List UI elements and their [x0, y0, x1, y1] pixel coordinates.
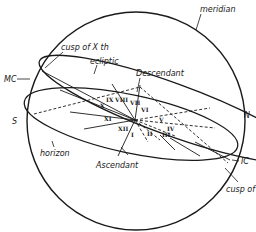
label-ecliptic: ecliptic — [90, 57, 119, 66]
house-xi: XI — [104, 115, 112, 122]
house-x: X — [100, 102, 105, 109]
label-mc: MC — [4, 75, 17, 84]
label-ascendant: Ascendant — [95, 161, 139, 170]
house-vii: VII — [129, 99, 140, 106]
label-cusp-x: cusp of Ⅹ th — [61, 43, 109, 52]
label-horizon: horizon — [40, 149, 70, 158]
house-viii: VIII — [114, 96, 128, 103]
house-v: V — [158, 116, 164, 123]
label-south: S — [12, 117, 17, 126]
celestial-sphere-diagram: meridian cusp of Ⅹ th ecliptic MC Descen… — [0, 0, 256, 232]
house-vi: VI — [140, 106, 149, 113]
label-meridian: meridian — [200, 5, 236, 14]
label-cusp-iv: cusp of — [226, 185, 256, 194]
house-ix: IX — [106, 96, 114, 103]
house-ii: II — [147, 130, 153, 137]
house-iv: IV — [167, 125, 175, 132]
horizon-ellipse — [18, 73, 243, 175]
house-xii: XII — [118, 125, 128, 132]
label-ic: IC — [241, 157, 249, 166]
label-north: N — [244, 111, 250, 120]
label-descendant: Descendant — [136, 69, 185, 78]
house-i: I — [131, 131, 134, 138]
house-iii: III — [162, 131, 171, 138]
